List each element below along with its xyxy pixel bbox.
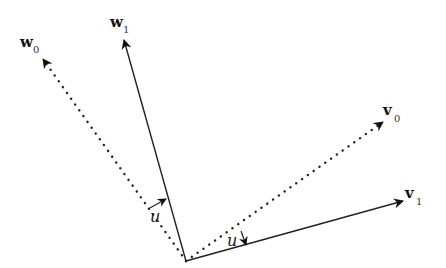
vector-w0-subscript: 0 xyxy=(33,44,39,55)
vector-v0-arrow xyxy=(186,122,383,261)
vector-w0-arrow xyxy=(43,59,186,261)
vector-v0-subscript: 0 xyxy=(394,113,400,124)
vector-w1-label: w xyxy=(109,13,124,31)
rotation-marker-v-label: u xyxy=(227,231,237,250)
rotation-marker-w-label: u xyxy=(150,207,160,226)
vector-w1-subscript: 1 xyxy=(123,24,129,35)
vector-w0-label: w xyxy=(19,33,34,51)
vector-v1-label: v xyxy=(404,184,415,202)
vector-v1-subscript: 1 xyxy=(416,196,422,207)
rotation-marker-v-arrow xyxy=(241,231,246,245)
vector-diagram: w 0 w 1 v 0 v 1 u u xyxy=(0,0,446,268)
vector-w1-arrow xyxy=(124,40,186,261)
vector-v1-arrow xyxy=(186,201,403,261)
vector-v0-label: v xyxy=(382,101,393,119)
